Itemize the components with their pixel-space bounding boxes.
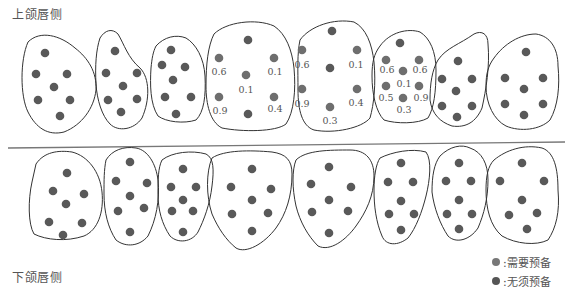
upper-labial-title: 上颌唇侧 bbox=[12, 5, 62, 22]
no-prep-point bbox=[438, 102, 447, 111]
no-prep-point bbox=[248, 165, 257, 174]
no-prep-point bbox=[384, 178, 393, 187]
no-prep-point bbox=[59, 231, 68, 240]
lower-tooth-6 bbox=[374, 150, 430, 243]
no-prep-point bbox=[518, 159, 527, 168]
no-prep-point bbox=[119, 82, 128, 91]
no-prep-point bbox=[126, 192, 135, 201]
no-prep-point bbox=[410, 210, 419, 219]
no-prep-point bbox=[126, 158, 135, 167]
lower-tooth-8 bbox=[486, 147, 559, 244]
no-prep-point bbox=[397, 197, 406, 206]
no-prep-point bbox=[34, 96, 43, 105]
no-prep-point bbox=[518, 196, 527, 205]
prep-depth-label: 0.6 bbox=[412, 64, 427, 75]
no-prep-point bbox=[228, 210, 237, 219]
legend-item-needs-prep: :需要预备 bbox=[492, 252, 551, 271]
no-prep-point bbox=[244, 110, 253, 119]
upper-tooth-3 bbox=[151, 36, 206, 122]
no-prep-point bbox=[325, 163, 334, 172]
prep-depth-label: 0.5 bbox=[378, 92, 393, 103]
no-prep-point bbox=[126, 228, 135, 237]
upper-tooth-6: 0.60.60.10.50.90.3 bbox=[372, 31, 436, 123]
no-prep-point bbox=[133, 69, 142, 78]
no-prep-point bbox=[409, 178, 418, 187]
no-prep-point bbox=[325, 196, 334, 205]
no-prep-point bbox=[454, 57, 463, 66]
tooth-outline bbox=[29, 151, 102, 239]
no-prep-point bbox=[62, 200, 71, 209]
no-prep-point bbox=[179, 228, 188, 237]
no-prep-point bbox=[539, 74, 548, 83]
no-prep-point bbox=[520, 111, 529, 120]
no-prep-point bbox=[325, 229, 334, 238]
no-prep-point bbox=[468, 75, 477, 84]
needs-prep-point bbox=[298, 85, 307, 94]
legend: :需要预备 :无须预备 bbox=[492, 252, 551, 290]
no-prep-point bbox=[396, 39, 405, 48]
no-prep-point bbox=[267, 185, 276, 194]
no-prep-point bbox=[453, 113, 462, 122]
prep-depth-label: 0.1 bbox=[267, 66, 282, 77]
prep-depth-label: 0.3 bbox=[396, 104, 411, 115]
no-prep-point bbox=[189, 207, 198, 216]
upper-tooth-8 bbox=[486, 34, 559, 129]
needs-prep-point bbox=[270, 54, 279, 63]
prep-depth-label: 0.6 bbox=[211, 66, 226, 77]
no-prep-point bbox=[112, 177, 121, 186]
no-prep-point bbox=[455, 196, 464, 205]
lower-tooth-7 bbox=[432, 146, 488, 240]
no-prep-point bbox=[501, 100, 510, 109]
upper-tooth-7 bbox=[430, 32, 489, 126]
no-prep-point bbox=[385, 210, 394, 219]
needs-prep-point bbox=[415, 82, 424, 91]
no-prep-point bbox=[181, 63, 190, 72]
no-prep-point bbox=[45, 218, 54, 227]
no-prep-point bbox=[307, 180, 316, 189]
no-prep-point bbox=[397, 226, 406, 235]
no-prep-point bbox=[192, 183, 201, 192]
no-prep-point bbox=[501, 74, 510, 83]
no-prep-point bbox=[455, 225, 464, 234]
no-prep-point bbox=[540, 177, 549, 186]
no-prep-point bbox=[187, 93, 196, 102]
legend-item-no-prep: :无须预备 bbox=[492, 271, 551, 290]
no-prep-dot-icon bbox=[492, 277, 500, 285]
no-prep-point bbox=[248, 227, 257, 236]
prep-depth-label: 0.1 bbox=[348, 59, 363, 70]
needs-prep-point bbox=[415, 56, 424, 65]
needs-prep-point bbox=[326, 103, 335, 112]
no-prep-point bbox=[63, 169, 72, 178]
no-prep-point bbox=[308, 208, 317, 217]
needs-prep-point bbox=[399, 67, 408, 76]
no-prep-point bbox=[56, 112, 65, 121]
no-prep-point bbox=[169, 76, 178, 85]
needs-prep-point bbox=[270, 93, 279, 102]
no-prep-point bbox=[455, 159, 464, 168]
lower-tooth-3 bbox=[158, 152, 213, 241]
no-prep-point bbox=[533, 209, 542, 218]
no-prep-point bbox=[158, 61, 167, 70]
no-prep-point bbox=[520, 85, 529, 94]
no-prep-point bbox=[326, 64, 335, 73]
no-prep-point bbox=[264, 209, 273, 218]
upper-tooth-4: 0.60.10.10.90.4 bbox=[206, 22, 295, 131]
no-prep-point bbox=[523, 225, 532, 234]
upper-tooth-1 bbox=[22, 35, 96, 133]
no-prep-point bbox=[143, 179, 152, 188]
no-prep-point bbox=[248, 196, 257, 205]
needs-prep-point bbox=[353, 46, 362, 55]
no-prep-point bbox=[111, 47, 120, 56]
needs-prep-dot-icon bbox=[492, 258, 500, 266]
lower-tooth-1 bbox=[29, 151, 102, 239]
no-prep-point bbox=[443, 210, 452, 219]
prep-depth-label: 0.4 bbox=[267, 103, 282, 114]
lower-tooth-2 bbox=[104, 148, 159, 245]
needs-prep-point bbox=[242, 71, 251, 80]
lower-arch bbox=[29, 146, 558, 250]
legend-label: :无须预备 bbox=[503, 273, 551, 289]
no-prep-point bbox=[344, 207, 353, 216]
prep-depth-label: 0.1 bbox=[238, 84, 253, 95]
no-prep-point bbox=[442, 177, 451, 186]
upper-tooth-5: 0.60.10.90.40.3 bbox=[294, 21, 374, 131]
